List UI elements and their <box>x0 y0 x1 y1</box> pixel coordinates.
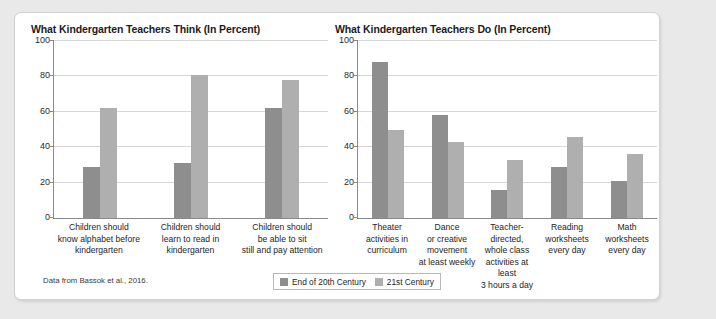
x-axis-category-label: Math worksheets every day <box>597 222 657 291</box>
bar-group <box>418 41 478 218</box>
bar <box>265 108 282 218</box>
y-axis-tick-label: 80 <box>40 70 50 80</box>
bar <box>491 190 507 218</box>
x-axis-category-label: Children should learn to read in kinderg… <box>145 222 237 257</box>
legend-swatch <box>375 278 383 286</box>
legend-label: 21st Century <box>387 277 434 287</box>
chart-title-right: What Kindergarten Teachers Do (In Percen… <box>335 23 661 35</box>
bar-group <box>237 41 328 218</box>
bar <box>191 75 208 218</box>
chart-teachers-think: What Kindergarten Teachers Think (In Per… <box>27 23 332 291</box>
bar <box>611 181 627 218</box>
legend-item: End of 20th Century <box>280 277 366 287</box>
category-labels-left: Children should know alphabet before kin… <box>53 219 328 257</box>
legend-swatch <box>280 278 288 286</box>
y-axis-tick-label: 80 <box>344 70 354 80</box>
bar-group <box>54 41 145 218</box>
y-axis-tick-label: 20 <box>40 177 50 187</box>
bars-layer <box>358 41 657 218</box>
x-axis-category-label: Children should know alphabet before kin… <box>53 222 145 257</box>
x-axis-category-label: Teacher-directed, whole class activities… <box>477 222 537 291</box>
bar <box>372 62 388 218</box>
bar <box>282 80 299 218</box>
y-axis-tick-label: 100 <box>339 35 354 45</box>
plot-area-left: 020406080100 <box>53 41 328 219</box>
bar <box>388 130 404 219</box>
x-axis-category-label: Reading worksheets every day <box>537 222 597 291</box>
bar <box>448 142 464 218</box>
y-axis-tick-label: 60 <box>344 106 354 116</box>
y-axis-tick-label: 40 <box>344 141 354 151</box>
plot-wrap-right: 020406080100 <box>331 41 661 219</box>
y-axis-tick-label: 20 <box>344 177 354 187</box>
chart-teachers-do: What Kindergarten Teachers Do (In Percen… <box>331 23 661 291</box>
x-axis-category-label: Children should be able to sit still and… <box>236 222 328 257</box>
bar-group <box>537 41 597 218</box>
bar <box>507 160 523 218</box>
legend-item: 21st Century <box>375 277 434 287</box>
bar <box>432 115 448 218</box>
bar <box>83 167 100 218</box>
y-axis-tick-label: 100 <box>35 35 50 45</box>
bar <box>567 137 583 218</box>
y-axis-tick-label: 60 <box>40 106 50 116</box>
source-note: Data from Bassok et al., 2016. <box>43 276 148 285</box>
bar-group <box>358 41 418 218</box>
plot-area-right: 020406080100 <box>357 41 657 219</box>
bar <box>627 154 643 218</box>
charts-row: What Kindergarten Teachers Think (In Per… <box>15 13 659 299</box>
bar <box>551 167 567 218</box>
legend-label: End of 20th Century <box>292 277 366 287</box>
bar <box>174 163 191 218</box>
chart-title-left: What Kindergarten Teachers Think (In Per… <box>31 23 332 35</box>
figure-panel: What Kindergarten Teachers Think (In Per… <box>14 12 660 300</box>
bar <box>100 108 117 218</box>
bars-layer <box>54 41 328 218</box>
plot-wrap-left: 020406080100 <box>27 41 332 219</box>
bar-group <box>145 41 236 218</box>
bar-group <box>478 41 538 218</box>
y-axis-tick-label: 40 <box>40 141 50 151</box>
bar-group <box>597 41 657 218</box>
chart-legend: End of 20th Century21st Century <box>273 273 441 290</box>
